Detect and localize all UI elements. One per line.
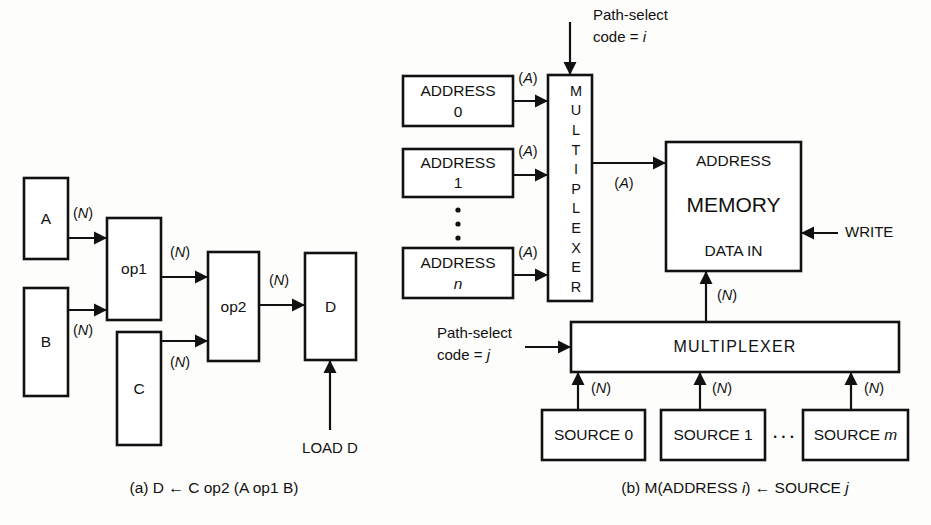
- figure-root: (N)(N)(N)(N)(N)ABCop1op2DLOAD D (A)(A)(A…: [0, 0, 931, 525]
- wire-source0-to-mux-width-label: (N): [591, 380, 611, 396]
- source-multiplexer-label: MULTIPLEXER: [673, 338, 796, 355]
- operator-2-label: op2: [221, 298, 247, 315]
- address-n[interactable]: ADDRESSn: [403, 248, 513, 298]
- address-n-label: ADDRESS: [421, 254, 496, 271]
- operator-1-label: op1: [121, 260, 147, 277]
- address-multiplexer-label-char: L: [572, 200, 580, 216]
- operand-c[interactable]: C: [117, 332, 161, 445]
- source-multiplexer[interactable]: MULTIPLEXER: [571, 322, 899, 372]
- memory-block[interactable]: ADDRESSMEMORYDATA IN: [666, 142, 801, 271]
- load-d-label: LOAD D: [302, 439, 358, 456]
- address-multiplexer-label-char: M: [570, 83, 582, 99]
- wire-source1-to-mux: (N): [694, 372, 733, 410]
- wire-a-to-op1-arrowhead: [94, 232, 107, 245]
- wire-sourcem-to-mux: (N): [845, 372, 885, 410]
- wire-mux-to-datain: (N): [700, 271, 738, 322]
- address-1[interactable]: ADDRESS1: [403, 149, 513, 197]
- write-signal-label: WRITE: [845, 223, 893, 240]
- path-select-code-j-line1: Path-select: [437, 324, 513, 341]
- wire-address1-to-mux-width-label: (A): [518, 143, 537, 159]
- wire-source1-to-mux-arrowhead: [694, 372, 707, 385]
- address-0[interactable]: ADDRESS0: [403, 76, 513, 126]
- wire-load-d-arrowhead: [324, 360, 337, 373]
- write-signal-arrowhead: [801, 227, 814, 240]
- wire-sourcem-to-mux-width-label: (N): [864, 380, 884, 396]
- caption-panel-b: (b) M(ADDRESS i) ← SOURCE j: [621, 479, 849, 496]
- result-d[interactable]: D: [305, 253, 356, 360]
- panel-a-datapath: (N)(N)(N)(N)(N)ABCop1op2DLOAD D: [24, 178, 358, 456]
- result-d-label: D: [325, 298, 336, 315]
- address-multiplexer[interactable]: MULTIPLEXER: [548, 75, 592, 301]
- address-ellipsis-dot-0: [455, 207, 460, 212]
- wire-c-to-op2: (N): [161, 335, 208, 370]
- wire-address0-to-mux: (A): [513, 70, 548, 108]
- wire-source1-to-mux-width-label: (N): [712, 380, 732, 396]
- source-0-label: SOURCE 0: [554, 426, 634, 443]
- source-m[interactable]: SOURCE m: [803, 410, 908, 460]
- memory-title-label: MEMORY: [686, 193, 780, 216]
- address-ellipsis: [455, 207, 460, 240]
- wire-mux-to-memory-arrowhead: [653, 157, 666, 170]
- wire-address1-to-mux: (A): [513, 143, 548, 182]
- address-1-label: ADDRESS: [421, 154, 496, 171]
- wire-mux-to-memory-width-label: (A): [614, 175, 633, 191]
- source-m-label: SOURCE m: [814, 426, 898, 443]
- source-0[interactable]: SOURCE 0: [542, 410, 645, 460]
- path-select-code-i-line2: code = i: [593, 28, 647, 45]
- write-signal: WRITE: [801, 223, 893, 240]
- source-ellipsis: ···: [772, 423, 797, 448]
- wire-b-to-op1-arrowhead: [94, 304, 107, 317]
- wire-op1-to-op2-arrowhead: [195, 271, 208, 284]
- operand-c-label: C: [133, 380, 144, 397]
- wire-a-to-op1: (N): [68, 205, 107, 245]
- wire-mux-to-datain-width-label: (N): [717, 287, 737, 303]
- address-n-index: n: [454, 275, 463, 292]
- wire-op2-to-d: (N): [259, 272, 305, 312]
- address-ellipsis-dot-1: [455, 221, 460, 226]
- panel-b-memory-write-path: (A)(A)(A)(A)(N)(N)(N)(N)ADDRESS0ADDRESS1…: [403, 6, 908, 460]
- caption-panel-a: (a) D ← C op2 (A op1 B): [130, 479, 299, 496]
- address-multiplexer-label-char: L: [572, 122, 580, 138]
- wire-address1-to-mux-arrowhead: [535, 169, 548, 182]
- path-select-code-j: Path-selectcode = j: [437, 324, 571, 363]
- wire-c-to-op2-width-label: (N): [170, 354, 190, 370]
- path-select-code-i-arrowhead: [564, 62, 577, 75]
- wire-b-to-op1-width-label: (N): [73, 322, 93, 338]
- source-1-label: SOURCE 1: [673, 426, 752, 443]
- wire-load-d: [324, 360, 337, 430]
- source-1[interactable]: SOURCE 1: [661, 410, 765, 460]
- wire-sourcem-to-mux-arrowhead: [845, 372, 858, 385]
- figure-captions: (a) D ← C op2 (A op1 B)(b) M(ADDRESS i) …: [130, 479, 850, 496]
- operator-2[interactable]: op2: [208, 252, 259, 361]
- address-ellipsis-dot-2: [455, 235, 460, 240]
- wire-address0-to-mux-arrowhead: [535, 95, 548, 108]
- path-select-code-i: Path-selectcode = i: [564, 6, 669, 75]
- operand-b[interactable]: B: [24, 288, 68, 396]
- operator-1[interactable]: op1: [107, 218, 161, 320]
- operand-b-label: B: [41, 333, 51, 350]
- path-select-code-j-arrowhead: [558, 341, 571, 354]
- wire-b-to-op1: (N): [68, 304, 107, 338]
- address-multiplexer-label: MULTIPLEXER: [570, 83, 582, 295]
- address-0-label: ADDRESS: [421, 82, 496, 99]
- address-multiplexer-label-char: U: [571, 102, 581, 118]
- operand-a[interactable]: A: [24, 178, 68, 259]
- address-multiplexer-label-char: R: [571, 279, 581, 295]
- memory-data-in-port-label: DATA IN: [705, 242, 763, 259]
- operand-a-label: A: [41, 210, 52, 227]
- address-multiplexer-label-char: E: [571, 220, 581, 236]
- address-multiplexer-label-char: X: [571, 240, 581, 256]
- wire-mux-to-datain-arrowhead: [700, 271, 713, 284]
- wire-address0-to-mux-width-label: (A): [518, 70, 537, 86]
- wire-op2-to-d-arrowhead: [292, 299, 305, 312]
- wire-c-to-op2-arrowhead: [195, 335, 208, 348]
- path-select-code-j-line2: code = j: [437, 346, 491, 363]
- path-select-code-i-line1: Path-select: [593, 6, 669, 23]
- wire-op1-to-op2: (N): [161, 244, 208, 284]
- wire-op1-to-op2-width-label: (N): [170, 244, 190, 260]
- address-multiplexer-label-char: I: [574, 161, 578, 177]
- address-1-index: 1: [454, 174, 463, 191]
- block-diagram-figure: (N)(N)(N)(N)(N)ABCop1op2DLOAD D (A)(A)(A…: [0, 0, 931, 525]
- wire-addressn-to-mux: (A): [513, 244, 548, 282]
- wire-mux-to-memory: (A): [592, 157, 666, 191]
